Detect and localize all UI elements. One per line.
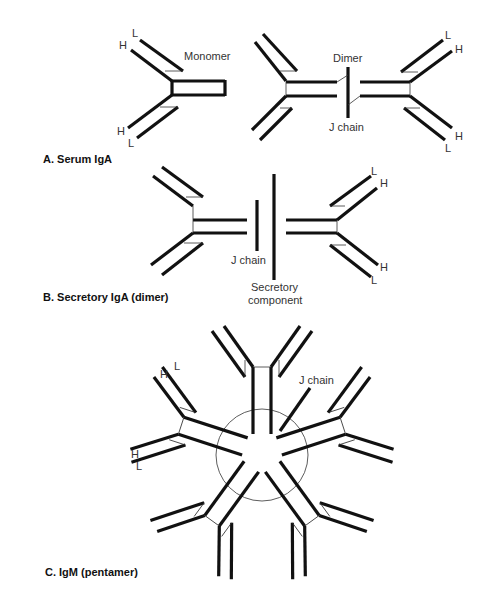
label-dimer: Dimer [333,52,363,64]
panel-a: H L H L Monomer [43,27,463,165]
immunoglobulin-diagram: H L H L Monomer [0,0,489,605]
polypeptide-chain [282,434,346,455]
polypeptide-chain [219,472,258,526]
label-monomer: Monomer [184,50,231,62]
polypeptide-chain [212,331,245,377]
polypeptide-chain [339,431,393,477]
polypeptide-chain [279,331,312,377]
disulfide-bond [169,440,185,445]
polypeptide-chain [266,523,320,580]
label-h: H [455,43,463,55]
panel-b: J chain Secretory component L H H L B. S… [43,165,388,306]
label-l: L [371,274,377,286]
polypeptide-chain [280,461,319,515]
label-component: component [248,294,302,306]
igm-monomer [147,437,291,583]
label-h: H [160,368,168,380]
panel-c-title: C. IgM (pentamer) [45,566,138,578]
label-h: H [131,448,139,460]
igm-pentamer [127,326,398,583]
label-h: H [380,177,388,189]
disulfide-bond [178,417,184,434]
label-l: L [445,142,451,154]
label-l: L [174,360,180,372]
j-chain-ring [216,409,308,501]
disulfide-bond [339,440,355,445]
panel-a-title: A. Serum IgA [43,153,112,165]
polypeptide-chain [271,326,300,367]
polypeptide-chain [184,417,248,438]
label-j-chain: J chain [299,374,334,386]
label-l: L [445,29,451,41]
label-h: H [117,125,125,137]
panel-c: J chain H L H L C. IgM (pentamer) [45,326,397,583]
label-secretory: Secretory [251,281,299,293]
label-j-chain: J chain [231,254,266,266]
disulfide-bond [205,515,220,526]
polypeptide-chain [205,461,244,515]
label-l: L [128,137,134,149]
j-chain-line [280,388,310,431]
label-l: L [371,165,377,177]
polypeptide-chain [205,523,259,580]
label-h: H [380,261,388,273]
label-h: H [119,39,127,51]
polypeptide-chain [265,472,304,526]
label-l: L [132,27,138,39]
disulfide-bond [305,515,320,526]
polypeptide-chain [224,326,253,367]
igm-monomer [212,326,312,434]
igm-monomer [232,437,376,583]
disulfide-bond [340,417,346,434]
igm-monomer [127,366,261,494]
polypeptide-chain [178,434,242,455]
polypeptide-chain [281,526,329,576]
polypeptide-chain [195,526,243,576]
label-j-chain: J chain [329,121,364,133]
label-l: L [136,460,142,472]
panel-b-title: B. Secretory IgA (dimer) [43,291,169,303]
label-h: H [455,130,463,142]
